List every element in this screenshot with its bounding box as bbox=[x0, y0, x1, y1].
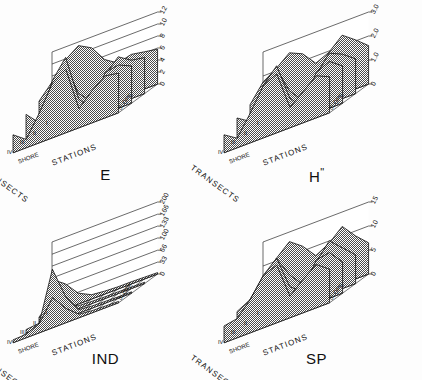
transect-tick-III: III bbox=[231, 329, 236, 335]
transect-profile-IV bbox=[13, 69, 119, 153]
y-tick-label: 10 bbox=[369, 219, 379, 229]
transect-tick-II: II bbox=[33, 320, 37, 326]
y-tick-label: 8 bbox=[158, 32, 166, 39]
y-tick-label: 0 bbox=[158, 270, 166, 277]
transect-tick-III: III bbox=[20, 139, 25, 145]
transect-tick-II: II bbox=[33, 130, 37, 136]
y-tick-label: 66 bbox=[158, 243, 168, 253]
transect-tick-IV: IV bbox=[7, 149, 13, 155]
y-tick-label: 2 bbox=[158, 68, 166, 75]
y-tick-label: 0 bbox=[369, 80, 377, 87]
panel-title-ind: IND bbox=[0, 350, 211, 367]
transect-tick-III: III bbox=[231, 139, 236, 145]
transect-profile-IV bbox=[224, 74, 330, 153]
shore-label: SHORE bbox=[228, 151, 250, 164]
stations-axis-label: STATIONS bbox=[50, 142, 98, 167]
y-tick-label: 0 bbox=[158, 80, 166, 87]
y-tick-label: 15 bbox=[369, 195, 379, 205]
y-tick-label: 3.0 bbox=[369, 3, 380, 15]
y-tick-label: 12 bbox=[158, 5, 168, 15]
y-tick-label: 200 bbox=[158, 191, 170, 205]
y-tick-label: 4 bbox=[158, 56, 166, 63]
y-tick-label: 2.0 bbox=[369, 27, 380, 39]
panel-title-h: H" bbox=[211, 166, 422, 185]
fence-plot-e: 024681012IIIIIIIVTRANSECTSSTATIONSSHORES… bbox=[0, 0, 211, 190]
stations-axis-label: STATIONS bbox=[261, 142, 309, 167]
y-tick-label: 6 bbox=[158, 44, 166, 51]
panel-h: 01.02.03.0IIIIIIIVTRANSECTSSTATIONSSHORE… bbox=[211, 0, 422, 190]
y-tick-label: 1.0 bbox=[369, 51, 380, 63]
y-tick-label: 5 bbox=[369, 246, 377, 253]
figure-sheet: 024681012IIIIIIIVTRANSECTSSTATIONSSHORES… bbox=[0, 0, 422, 380]
transect-tick-IV: IV bbox=[218, 149, 224, 155]
transect-profile-IV bbox=[224, 265, 330, 343]
transect-tick-II: II bbox=[244, 320, 248, 326]
panel-title-e: E bbox=[0, 166, 211, 183]
y-tick-label: 0 bbox=[369, 270, 377, 277]
transect-tick-III: III bbox=[20, 329, 25, 335]
transect-tick-IV: IV bbox=[7, 339, 13, 345]
transect-tick-IV: IV bbox=[218, 339, 224, 345]
y-tick-label: 33 bbox=[158, 255, 168, 265]
fence-plot-h: 01.02.03.0IIIIIIIVTRANSECTSSTATIONSSHORE… bbox=[211, 0, 422, 190]
panel-e: 024681012IIIIIIIVTRANSECTSSTATIONSSHORES… bbox=[0, 0, 211, 190]
y-tick-label: 10 bbox=[158, 17, 168, 27]
shore-label: SHORE bbox=[17, 151, 39, 164]
transect-tick-II: II bbox=[244, 130, 248, 136]
panel-title-sp: SP bbox=[211, 350, 422, 367]
